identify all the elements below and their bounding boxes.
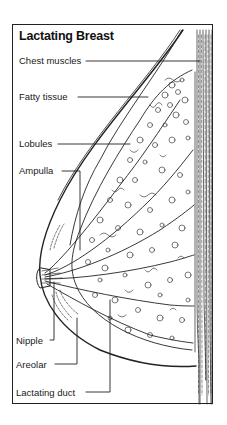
skin-outline	[40, 30, 196, 367]
label-lobules: Lobules	[19, 138, 52, 149]
leader-lines	[50, 61, 200, 392]
label-ampulla: Ampulla	[19, 165, 53, 176]
label-chest-muscles: Chest muscles	[19, 55, 81, 66]
leader-areolar	[55, 318, 77, 364]
label-nipple: Nipple	[16, 335, 43, 346]
lactating-breast-diagram: Lactating Breast Chest muscles Fatty tis…	[0, 0, 227, 425]
label-lactating-duct: Lactating duct	[16, 387, 75, 398]
diagram-title: Lactating Breast	[19, 29, 114, 43]
milk-ducts	[45, 100, 194, 343]
chest-muscle-strip	[197, 30, 212, 404]
label-fatty-tissue: Fatty tissue	[19, 91, 68, 102]
label-areolar: Areolar	[16, 359, 47, 370]
